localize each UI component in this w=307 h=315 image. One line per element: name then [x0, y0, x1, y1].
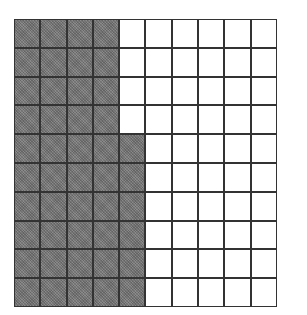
shaded-cell [120, 164, 144, 191]
unshaded-cell [252, 49, 276, 76]
unshaded-cell [146, 222, 170, 249]
shaded-cell [94, 135, 118, 162]
shaded-cell [41, 164, 65, 191]
shaded-cell [68, 222, 92, 249]
unshaded-cell [252, 279, 276, 306]
shaded-cell [15, 164, 39, 191]
shaded-cell [68, 193, 92, 220]
unshaded-cell [252, 135, 276, 162]
unshaded-cell [252, 78, 276, 105]
unshaded-cell [199, 49, 223, 76]
shaded-cell [41, 193, 65, 220]
shaded-cell [15, 222, 39, 249]
shaded-cell [15, 49, 39, 76]
shaded-cell [41, 106, 65, 133]
shaded-cell [15, 193, 39, 220]
shaded-cell [15, 78, 39, 105]
hundred-grid [14, 19, 277, 307]
unshaded-cell [199, 106, 223, 133]
unshaded-cell [120, 78, 144, 105]
unshaded-cell [225, 20, 249, 47]
unshaded-cell [199, 222, 223, 249]
shaded-cell [68, 78, 92, 105]
shaded-cell [15, 20, 39, 47]
unshaded-cell [225, 193, 249, 220]
unshaded-cell [120, 20, 144, 47]
shaded-cell [41, 279, 65, 306]
shaded-cell [94, 78, 118, 105]
unshaded-cell [146, 135, 170, 162]
unshaded-cell [225, 222, 249, 249]
shaded-cell [120, 193, 144, 220]
shaded-cell [68, 49, 92, 76]
unshaded-cell [146, 279, 170, 306]
unshaded-cell [252, 164, 276, 191]
unshaded-cell [225, 164, 249, 191]
shaded-cell [41, 49, 65, 76]
unshaded-cell [173, 164, 197, 191]
shaded-cell [94, 49, 118, 76]
shaded-cell [94, 279, 118, 306]
unshaded-cell [225, 78, 249, 105]
shaded-cell [41, 78, 65, 105]
shaded-cell [120, 279, 144, 306]
unshaded-cell [173, 106, 197, 133]
unshaded-cell [173, 279, 197, 306]
unshaded-cell [252, 106, 276, 133]
shaded-cell [15, 279, 39, 306]
unshaded-cell [199, 279, 223, 306]
shaded-cell [94, 106, 118, 133]
shaded-cell [68, 20, 92, 47]
unshaded-cell [146, 164, 170, 191]
shaded-cell [94, 250, 118, 277]
shaded-cell [41, 250, 65, 277]
unshaded-cell [173, 49, 197, 76]
unshaded-cell [252, 193, 276, 220]
unshaded-cell [199, 20, 223, 47]
shaded-cell [15, 135, 39, 162]
unshaded-cell [173, 193, 197, 220]
shaded-cell [120, 222, 144, 249]
unshaded-cell [199, 193, 223, 220]
shaded-cell [41, 20, 65, 47]
unshaded-cell [199, 250, 223, 277]
unshaded-cell [173, 20, 197, 47]
shaded-cell [68, 279, 92, 306]
shaded-cell [68, 164, 92, 191]
unshaded-cell [173, 135, 197, 162]
unshaded-cell [252, 250, 276, 277]
unshaded-cell [146, 193, 170, 220]
shaded-cell [15, 250, 39, 277]
unshaded-cell [225, 250, 249, 277]
unshaded-cell [252, 222, 276, 249]
unshaded-cell [173, 78, 197, 105]
unshaded-cell [225, 135, 249, 162]
unshaded-cell [199, 78, 223, 105]
unshaded-cell [146, 106, 170, 133]
shaded-cell [94, 20, 118, 47]
shaded-cell [41, 222, 65, 249]
unshaded-cell [225, 49, 249, 76]
shaded-cell [68, 106, 92, 133]
shaded-cell [94, 193, 118, 220]
unshaded-cell [146, 49, 170, 76]
shaded-cell [68, 135, 92, 162]
unshaded-cell [173, 222, 197, 249]
unshaded-cell [225, 106, 249, 133]
shaded-cell [41, 135, 65, 162]
unshaded-cell [199, 135, 223, 162]
unshaded-cell [146, 250, 170, 277]
unshaded-cell [120, 49, 144, 76]
shaded-cell [94, 164, 118, 191]
unshaded-cell [173, 250, 197, 277]
unshaded-cell [199, 164, 223, 191]
unshaded-cell [146, 78, 170, 105]
unshaded-cell [252, 20, 276, 47]
unshaded-cell [146, 20, 170, 47]
shaded-cell [120, 135, 144, 162]
shaded-cell [120, 250, 144, 277]
unshaded-cell [225, 279, 249, 306]
unshaded-cell [120, 106, 144, 133]
shaded-cell [94, 222, 118, 249]
shaded-cell [15, 106, 39, 133]
